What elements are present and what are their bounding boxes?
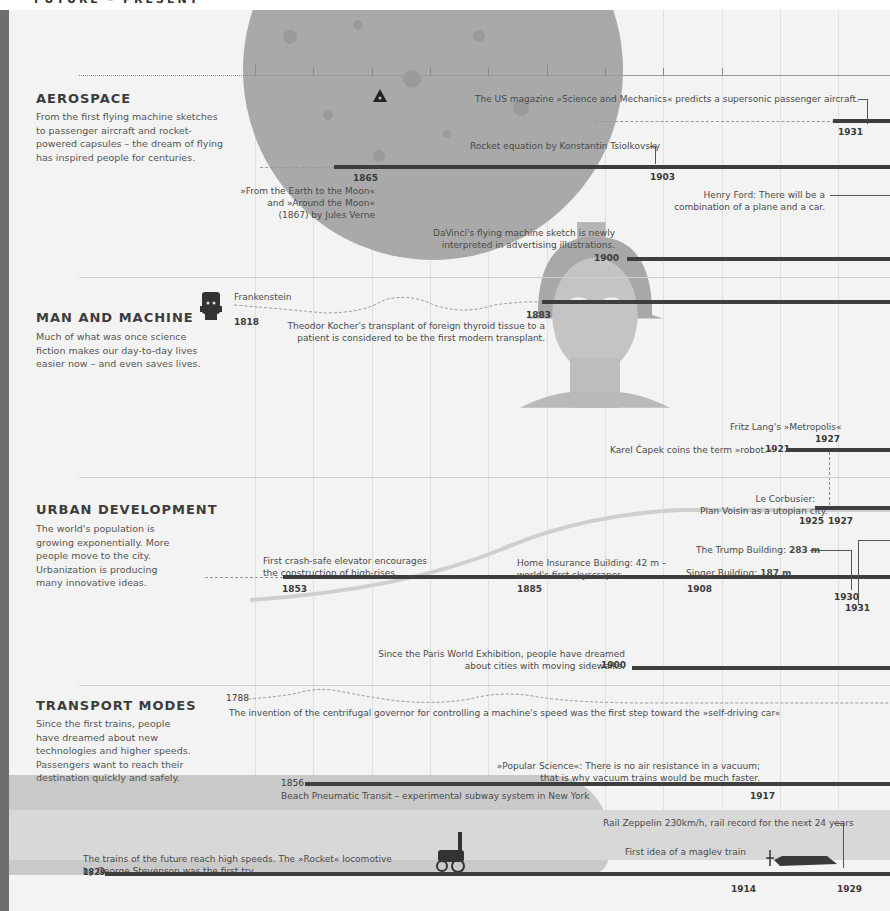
event-year: 1927	[828, 516, 853, 526]
label-text: The Trump Building:	[696, 545, 786, 555]
event-label: Rocket equation by Konstantin Tsiolkovsk…	[470, 140, 660, 152]
connector-line	[650, 146, 656, 164]
event-year: 1900	[601, 660, 626, 670]
event-label: Rail Zeppelin 230km/h, rail record for t…	[603, 817, 854, 829]
event-year: 1927	[815, 434, 840, 444]
event-label: »Popular Science«: There is no air resis…	[460, 760, 760, 784]
label-line: combination of a plane and a car.	[620, 201, 825, 213]
tick-label-1900: 1900	[552, 65, 572, 74]
section-divider	[79, 685, 890, 686]
axis-tick	[313, 68, 314, 76]
event-label: Beach Pneumatic Transit – experimental s…	[281, 790, 590, 802]
event-label: Henry Ford: There will be a combination …	[620, 189, 825, 213]
tick-label-1850: 1850	[260, 65, 280, 74]
label-text: Singer Building:	[686, 568, 757, 578]
event-year: 1931	[838, 127, 863, 137]
label-line: (1867) by Jules Verne	[230, 209, 375, 221]
maglev-train-icon	[762, 850, 847, 868]
event-year: 1931	[845, 603, 870, 613]
event-year: 1829	[83, 868, 105, 877]
label-line: and »Around the Moon«	[230, 197, 375, 209]
connector-line	[810, 550, 852, 590]
section-title-aerospace: AEROSPACE	[36, 91, 131, 106]
event-year: 1929	[837, 884, 862, 894]
event-year: 1925	[799, 516, 824, 526]
section-desc-man-and-machine: Much of what was once science fiction ma…	[36, 330, 216, 371]
label-line: patient is considered to be the first mo…	[240, 332, 545, 344]
label-line: »Popular Science«: There is no air resis…	[460, 760, 760, 772]
timeline-sheet: 1850 1900 AEROSPACE From the first flyin…	[0, 10, 890, 911]
axis-tick	[605, 68, 606, 76]
event-year: 1917	[750, 791, 775, 801]
header-strip: FUTURE – PRESENT	[0, 0, 890, 10]
label-line: Plan Voisin as a utopian city.	[700, 505, 815, 517]
event-bar-1829	[105, 872, 890, 876]
time-axis	[254, 75, 890, 76]
label-line: world's first skyscraper	[517, 569, 666, 581]
event-label: Le Corbusier: Plan Voisin as a utopian c…	[700, 493, 815, 517]
dashed-wave	[234, 295, 544, 320]
event-year: 1930	[834, 592, 859, 602]
left-edge-bar	[0, 10, 9, 911]
dashed-wave	[248, 687, 890, 705]
section-title-urban-development: URBAN DEVELOPMENT	[36, 502, 218, 517]
label-line: Henry Ford: There will be a	[620, 189, 825, 201]
section-title-transport-modes: TRANSPORT MODES	[36, 698, 197, 713]
event-label: Theodor Kocher's transplant of foreign t…	[240, 320, 545, 344]
section-divider	[79, 277, 890, 278]
section-divider	[79, 477, 890, 478]
event-label: Since the Paris World Exhibition, people…	[340, 648, 625, 672]
axis-tick	[488, 68, 489, 76]
frankenstein-head-icon	[200, 292, 222, 320]
event-year: 1853	[282, 584, 307, 594]
rocket-locomotive-icon	[430, 830, 472, 872]
header-title: FUTURE – PRESENT	[34, 0, 200, 6]
event-bar-1900	[632, 666, 890, 670]
event-bar-1931	[833, 119, 890, 123]
event-year: 1885	[517, 584, 542, 594]
label-line: Theodor Kocher's transplant of foreign t…	[240, 320, 545, 332]
event-year: 1903	[650, 172, 675, 182]
axis-tick	[430, 68, 431, 76]
event-bar-1925	[815, 506, 890, 510]
event-year: 1883	[526, 310, 551, 320]
dashed-lead	[595, 121, 840, 122]
axis-tick	[663, 68, 664, 76]
event-label: »From the Earth to the Moon« and »Around…	[230, 185, 375, 221]
event-year: 1856	[281, 778, 304, 788]
label-line: DaVinci's flying machine sketch is newly	[430, 227, 615, 239]
label-line: »From the Earth to the Moon«	[230, 185, 375, 197]
event-label: The invention of the centrifugal governo…	[229, 707, 780, 719]
label-line: interpreted in advertising illustrations…	[430, 239, 615, 251]
event-year: 1865	[353, 173, 378, 183]
label-line: Since the Paris World Exhibition, people…	[340, 648, 625, 660]
section-title-man-and-machine: MAN AND MACHINE	[36, 310, 194, 325]
event-label: Fritz Lang's »Metropolis«	[730, 421, 842, 433]
label-line: The trains of the future reach high spee…	[83, 853, 392, 865]
event-label: DaVinci's flying machine sketch is newly…	[430, 227, 615, 251]
label-line: Home Insurance Building: 42 m –	[517, 557, 666, 569]
section-desc-urban-development: The world's population is growing expone…	[36, 522, 186, 590]
event-label: The Trump Building: 283 m	[696, 544, 820, 556]
dashed-lead	[260, 167, 335, 168]
event-bar-1865	[334, 165, 890, 169]
axis-lead	[79, 75, 254, 76]
event-label: Home Insurance Building: 42 m – world's …	[517, 557, 666, 581]
event-bar-1921	[786, 448, 890, 452]
label-line: First crash-safe elevator encourages	[263, 555, 427, 567]
event-bar-1883	[542, 300, 890, 304]
section-desc-aerospace: From the first flying machine sketches t…	[36, 110, 226, 164]
event-year: 1908	[687, 584, 712, 594]
label-line: about cities with moving sidewalks.	[340, 660, 625, 672]
event-label: The US magazine »Science and Mechanics« …	[475, 93, 859, 105]
connector-line	[858, 540, 890, 605]
connector-line	[830, 195, 890, 196]
rocket-capsule-icon	[372, 88, 388, 104]
event-year: 1900	[594, 253, 619, 263]
axis-tick	[547, 64, 548, 76]
event-label: Karel Čapek coins the term »robot.«	[610, 444, 773, 456]
axis-tick	[372, 68, 373, 76]
axis-tick	[255, 64, 256, 76]
dashed-lead	[205, 577, 283, 578]
event-label: Singer Building: 187 m	[686, 567, 791, 579]
